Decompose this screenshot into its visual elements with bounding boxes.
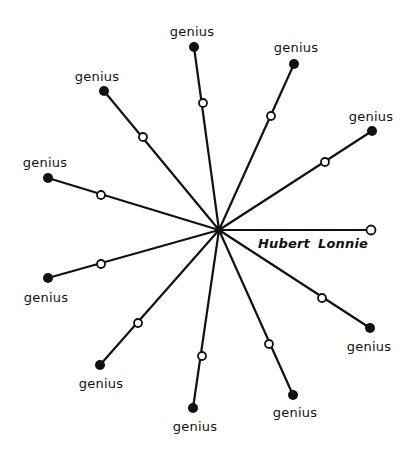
genius-label: genius	[349, 110, 393, 123]
spoke-diagram-canvas	[0, 0, 418, 456]
genius-label: genius	[24, 291, 68, 304]
filled-node-icon	[99, 86, 109, 96]
open-node-icon	[97, 191, 105, 199]
person-name-label: Lonnie	[318, 237, 368, 250]
open-node-icon	[265, 340, 273, 348]
spoke-line	[194, 47, 219, 230]
spoke-line	[48, 178, 219, 230]
filled-node-icon	[289, 59, 299, 69]
spoke	[95, 230, 219, 370]
open-node-icon	[267, 112, 275, 120]
filled-node-icon	[367, 126, 377, 136]
filled-node-icon	[188, 403, 198, 413]
spoke	[43, 230, 219, 283]
open-node-icon	[199, 99, 207, 107]
genius-label: genius	[170, 25, 214, 38]
open-node-icon	[97, 260, 105, 268]
person-name-label: Hubert	[258, 237, 310, 250]
open-node-icon	[139, 133, 147, 141]
genius-label: genius	[79, 377, 123, 390]
genius-label: genius	[347, 340, 391, 353]
genius-label: genius	[173, 420, 217, 433]
spoke	[99, 86, 219, 230]
open-node-icon	[321, 158, 329, 166]
filled-node-icon	[288, 390, 298, 400]
genius-label: genius	[273, 406, 317, 419]
genius-label: genius	[75, 70, 119, 83]
filled-node-icon	[95, 360, 105, 370]
hub-node-icon	[215, 226, 223, 234]
open-node-icon	[134, 319, 142, 327]
filled-node-icon	[365, 323, 375, 333]
filled-node-icon	[43, 173, 53, 183]
spoke	[219, 226, 376, 235]
spoke	[188, 230, 219, 413]
spoke	[189, 42, 219, 230]
genius-label: genius	[23, 156, 67, 169]
filled-node-icon	[43, 273, 53, 283]
open-node-icon	[367, 226, 376, 235]
genius-network-diagram: geniusgeniusgeniusgeniusgeniusgeniusgeni…	[0, 0, 418, 456]
genius-label: genius	[274, 41, 318, 54]
filled-node-icon	[189, 42, 199, 52]
open-node-icon	[198, 352, 206, 360]
spoke	[43, 173, 219, 230]
spoke-line	[48, 230, 219, 278]
open-node-icon	[318, 294, 326, 302]
